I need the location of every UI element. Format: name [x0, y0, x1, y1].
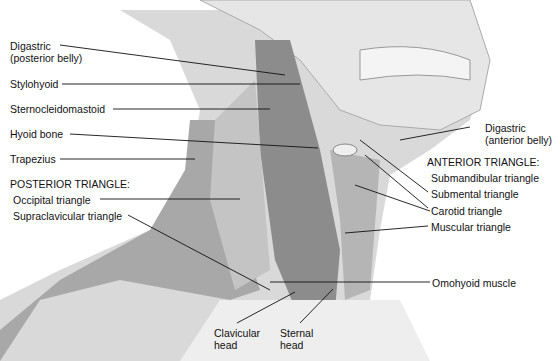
label-anterior-triangle: ANTERIOR TRIANGLE:: [427, 156, 539, 168]
label-digastric-posterior: Digastric (posterior belly): [10, 40, 82, 64]
label-occipital-triangle: Occipital triangle: [13, 194, 91, 206]
label-supraclavicular-triangle: Supraclavicular triangle: [13, 210, 122, 222]
label-submental-triangle: Submental triangle: [431, 188, 519, 200]
label-line: head: [214, 339, 260, 351]
label-line: Clavicular: [214, 327, 260, 339]
label-muscular-triangle: Muscular triangle: [431, 221, 511, 233]
label-line: Digastric: [10, 40, 82, 52]
label-clavicular-head: Clavicular head: [214, 327, 260, 351]
label-posterior-triangle: POSTERIOR TRIANGLE:: [10, 178, 130, 190]
label-carotid-triangle: Carotid triangle: [431, 205, 502, 217]
label-line: (posterior belly): [10, 52, 82, 64]
label-sternocleidomastoid: Sternocleidomastoid: [10, 103, 105, 115]
label-line: Digastric: [485, 122, 552, 134]
hyoid-bone: [333, 144, 357, 156]
label-trapezius: Trapezius: [10, 153, 56, 165]
label-line: (anterior belly): [485, 134, 552, 146]
label-omohyoid-muscle: Omohyoid muscle: [432, 277, 516, 289]
label-submandibular-triangle: Submandibular triangle: [431, 172, 539, 184]
label-sternal-head: Sternal head: [280, 327, 313, 351]
label-stylohyoid: Stylohyoid: [10, 78, 58, 90]
label-digastric-anterior: Digastric (anterior belly): [485, 122, 552, 146]
label-hyoid-bone: Hyoid bone: [10, 128, 63, 140]
label-line: head: [280, 339, 313, 351]
label-line: Sternal: [280, 327, 313, 339]
